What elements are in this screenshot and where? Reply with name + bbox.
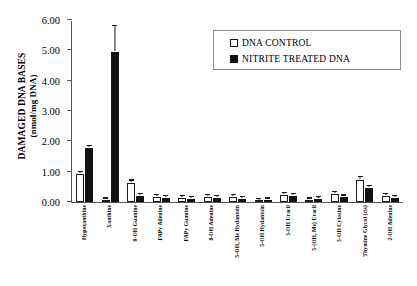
bar-nitrite-treated <box>162 198 170 202</box>
x-axis-label: Xanthine <box>97 205 123 283</box>
error-bar <box>318 196 319 198</box>
bar-nitrite-treated <box>340 197 348 202</box>
error-bar <box>191 196 192 198</box>
error-bar <box>343 194 344 196</box>
error-bar <box>394 195 395 197</box>
bar-dna-control <box>204 197 212 202</box>
bar-nitrite-treated <box>85 148 93 202</box>
bar-nitrite-treated <box>213 198 221 202</box>
x-axis-label: 5-OH, Me Hydantoin <box>224 205 250 283</box>
legend-item-control: DNA CONTROL <box>230 35 400 51</box>
error-bar <box>258 198 259 200</box>
bar-dna-control <box>178 198 186 202</box>
bar-nitrite-treated <box>314 199 322 202</box>
x-axis-label: Hypoxanthine <box>71 205 97 283</box>
error-bar <box>309 197 310 199</box>
x-axis-label: 2-OH Adenine <box>377 205 403 283</box>
bar-group <box>72 21 97 202</box>
y-axis-title-line1: DAMAGED DNA BASES <box>17 26 28 186</box>
error-bar <box>80 171 81 173</box>
x-axis-label: 5-OH Hydantoin <box>250 205 276 283</box>
error-bar <box>131 179 132 182</box>
error-bar <box>89 145 90 147</box>
y-axis-tick-label: 2.00 <box>42 136 60 147</box>
error-bar <box>105 197 106 199</box>
bar-dna-control <box>382 196 390 202</box>
bar-nitrite-treated <box>391 198 399 202</box>
x-axis-label-text: FAPy Guanine <box>183 205 189 241</box>
error-bar <box>385 193 386 195</box>
bar-nitrite-treated <box>187 199 195 202</box>
error-bar <box>216 195 217 197</box>
bar-nitrite-treated <box>264 200 272 202</box>
error-bar <box>140 193 141 195</box>
x-axis-label-text: Xanthine <box>106 205 112 228</box>
y-axis-tick-label: 5.00 <box>42 45 60 56</box>
bar-group <box>148 21 173 202</box>
x-axis-label-text: 5-(OH, Me) Uracil <box>310 205 316 251</box>
y-axis-tick-label: 0.00 <box>42 197 60 208</box>
bar-dna-control <box>127 183 135 202</box>
legend-label-control: DNA CONTROL <box>242 38 312 48</box>
bar-nitrite-treated <box>289 196 297 202</box>
bar-nitrite-treated <box>365 188 373 202</box>
bar-group <box>123 21 148 202</box>
bar-nitrite-treated <box>238 199 246 202</box>
bar-dna-control <box>153 197 161 202</box>
error-bar <box>360 176 361 180</box>
y-axis-tick: 6.00 <box>67 19 72 20</box>
error-bar <box>207 194 208 196</box>
y-axis-tick-label: 4.00 <box>42 75 60 86</box>
x-axis-label-text: 5-OH Cytosine <box>336 205 342 242</box>
legend-swatch-filled-square-icon <box>230 55 238 63</box>
bar-dna-control <box>229 197 237 202</box>
x-axis-label: 5-(OH, Me) Uracil <box>301 205 327 283</box>
y-axis-title: DAMAGED DNA BASES (nmol/mg DNA) <box>2 30 36 200</box>
x-axis-label: 8-OH Adenine <box>199 205 225 283</box>
bar-dna-control <box>280 195 288 202</box>
legend-swatch-hollow-square-icon <box>230 39 238 47</box>
x-axis-label-text: 2-OH Adenine <box>387 205 393 241</box>
error-bar <box>156 194 157 196</box>
x-axis-label-text: 8-OH Guanine <box>132 205 138 241</box>
error-bar <box>334 191 335 193</box>
bar-dna-control <box>76 174 84 202</box>
bar-dna-control <box>305 200 313 202</box>
y-axis-tick-label: 3.00 <box>42 106 60 117</box>
x-axis-label: 5-OH Cytosine <box>326 205 352 283</box>
x-axis-labels: HypoxanthineXanthine8-OH GuanineFAPy Ade… <box>71 205 403 283</box>
error-bar <box>369 185 370 187</box>
x-axis-label-text: Thymine Glycol (cis) <box>361 205 367 257</box>
bar-nitrite-treated <box>111 52 119 202</box>
error-bar <box>114 25 115 51</box>
x-axis-label-text: Hypoxanthine <box>81 205 87 240</box>
error-bar <box>267 197 268 199</box>
x-axis-label-text: FAPy Adenine <box>157 205 163 240</box>
x-axis-label-text: 5-OH, Me Hydantoin <box>234 205 240 258</box>
bar-dna-control <box>331 194 339 202</box>
error-bar <box>242 196 243 198</box>
y-axis-tick-label: 6.00 <box>42 15 60 26</box>
error-bar <box>292 193 293 195</box>
x-axis-label: Thymine Glycol (cis) <box>352 205 378 283</box>
error-bar <box>165 195 166 197</box>
x-axis-label-text: 5-OH Uracil <box>285 205 291 236</box>
error-bar <box>283 192 284 194</box>
error-bar <box>182 195 183 197</box>
y-axis-tick-label: 1.00 <box>42 166 60 177</box>
x-axis-label: 5-OH Uracil <box>275 205 301 283</box>
bar-nitrite-treated <box>136 196 144 202</box>
bar-group <box>97 21 122 202</box>
legend-item-treated: NITRITE TREATED DNA <box>230 51 400 67</box>
x-axis-label: FAPy Guanine <box>173 205 199 283</box>
bar-dna-control <box>356 180 364 202</box>
x-axis-label: 8-OH Guanine <box>122 205 148 283</box>
bar-group <box>174 21 199 202</box>
legend-label-treated: NITRITE TREATED DNA <box>242 54 350 64</box>
x-axis-label-text: 5-OH Hydantoin <box>259 205 265 247</box>
bar-chart-figure: DAMAGED DNA BASES (nmol/mg DNA) 6.005.00… <box>0 0 417 286</box>
x-axis-label: FAPy Adenine <box>148 205 174 283</box>
y-axis-title-line2: (nmol/mg DNA) <box>28 26 39 186</box>
chart-legend: DNA CONTROL NITRITE TREATED DNA <box>213 30 401 70</box>
x-axis-label-text: 8-OH Adenine <box>208 205 214 241</box>
